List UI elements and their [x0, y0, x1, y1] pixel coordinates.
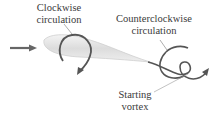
counterclockwise-leader-line	[160, 40, 167, 50]
starting-vortex-label: Starting vortex	[113, 89, 157, 113]
counterclockwise-circulation-label: Counterclockwise circulation	[113, 13, 195, 37]
counterclockwise-label-line2: circulation	[113, 25, 195, 37]
clockwise-label-line2: circulation	[34, 14, 84, 26]
counterclockwise-label-line1: Counterclockwise	[113, 13, 195, 25]
starting-vortex-label-line1: Starting	[113, 89, 157, 101]
clockwise-circulation-label: Clockwise circulation	[34, 2, 84, 26]
flow-arrow-icon	[10, 45, 37, 52]
starting-vortex-leader-line	[154, 74, 188, 92]
starting-vortex-label-line2: vortex	[113, 101, 157, 113]
clockwise-label-line1: Clockwise	[34, 2, 84, 14]
starting-vortex-spiral-icon	[148, 46, 209, 78]
